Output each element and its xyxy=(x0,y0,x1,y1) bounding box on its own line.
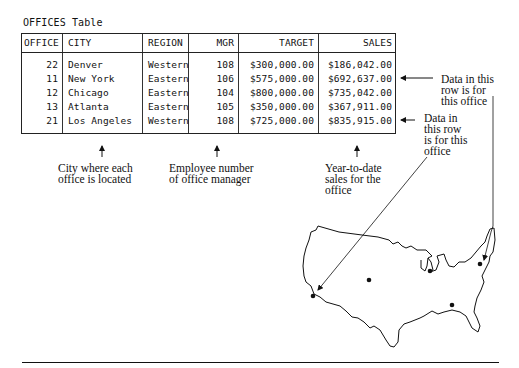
map-marker-denver xyxy=(367,278,372,283)
us-map-outline xyxy=(303,226,495,347)
leader-line-los-angeles xyxy=(318,157,427,290)
map-marker-los-angeles xyxy=(311,294,316,299)
map-marker-chicago xyxy=(428,269,433,274)
map-marker-atlanta xyxy=(450,303,455,308)
lake-michigan xyxy=(421,258,428,271)
leader-line-new-york xyxy=(484,96,493,260)
bottom-rule xyxy=(22,362,499,363)
diagram-graphics xyxy=(0,0,519,368)
map-marker-new-york xyxy=(478,262,483,267)
